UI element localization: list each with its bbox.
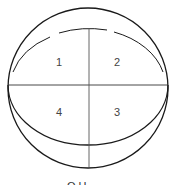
inner-ellipse-upper-arc-right <box>114 32 163 72</box>
inner-ellipse-upper-arc-middle <box>59 29 107 33</box>
inner-ellipse-lower-arc <box>8 85 168 145</box>
quadrant-label-3: 3 <box>114 106 120 118</box>
quadrant-label-2: 2 <box>114 56 120 68</box>
quadrant-diagram: 1 2 3 4 O H <box>0 0 173 185</box>
quadrant-label-1: 1 <box>56 56 62 68</box>
diagram-caption: O H <box>67 180 87 185</box>
inner-ellipse-upper-arc-left <box>13 37 50 72</box>
outer-circle <box>8 8 168 168</box>
quadrant-label-4: 4 <box>56 106 62 118</box>
